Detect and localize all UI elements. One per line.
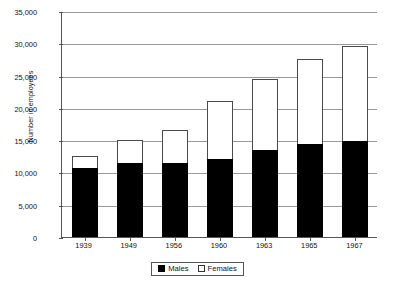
legend: Males Females: [0, 262, 395, 276]
legend-label-males: Males: [168, 264, 188, 273]
bar-group: [72, 12, 98, 237]
bar-segment-females: [252, 79, 278, 150]
bar-series-container: [62, 12, 377, 237]
legend-label-females: Females: [208, 264, 237, 273]
y-axis-tick-label: 15,000: [0, 137, 37, 146]
bar-group: [162, 12, 188, 237]
y-axis-tick-mark: [59, 238, 63, 239]
legend-item-females: Females: [198, 264, 237, 273]
y-axis-tick-label: 0: [0, 234, 37, 243]
bar-group: [297, 12, 323, 237]
x-axis-tick-label: 1963: [251, 241, 277, 250]
bar-segment-males: [72, 168, 98, 237]
bar-segment-females: [72, 156, 98, 168]
x-axis-tick-label: 1939: [71, 241, 97, 250]
bar-segment-males: [297, 144, 323, 237]
y-axis-tick-label: 20,000: [0, 105, 37, 114]
bar-segment-females: [342, 46, 368, 142]
y-axis-tick-label: 5,000: [0, 202, 37, 211]
bar-segment-females: [117, 140, 143, 163]
legend-item-males: Males: [158, 264, 188, 273]
bar-segment-males: [252, 150, 278, 237]
x-axis-tick-label: 1967: [341, 241, 367, 250]
bar-segment-females: [297, 59, 323, 144]
bar-segment-males: [162, 163, 188, 237]
bar-chart: Number in employees 05,00010,00015,00020…: [0, 0, 395, 290]
y-axis-tick-label: 30,000: [0, 40, 37, 49]
y-axis-tick-label: 10,000: [0, 169, 37, 178]
y-axis-tick-label: 35,000: [0, 8, 37, 17]
bar-group: [342, 12, 368, 237]
x-axis-tick-labels: 1939194919561960196319651967: [61, 241, 377, 250]
y-axis-tick-label: 25,000: [0, 73, 37, 82]
bar-segment-males: [117, 163, 143, 237]
bar-group: [117, 12, 143, 237]
bar-segment-males: [342, 141, 368, 237]
legend-swatch-females-icon: [198, 265, 205, 272]
bar-segment-males: [207, 159, 233, 237]
x-axis-tick-label: 1965: [296, 241, 322, 250]
bar-group: [207, 12, 233, 237]
plot-area: 05,00010,00015,00020,00025,00030,00035,0…: [61, 12, 377, 238]
x-axis-tick-label: 1956: [161, 241, 187, 250]
bar-segment-females: [162, 130, 188, 162]
legend-swatch-males-icon: [158, 265, 165, 272]
bar-segment-females: [207, 101, 233, 158]
bar-group: [252, 12, 278, 237]
legend-box: Males Females: [151, 262, 243, 276]
x-axis-tick-label: 1949: [116, 241, 142, 250]
x-axis-tick-label: 1960: [206, 241, 232, 250]
